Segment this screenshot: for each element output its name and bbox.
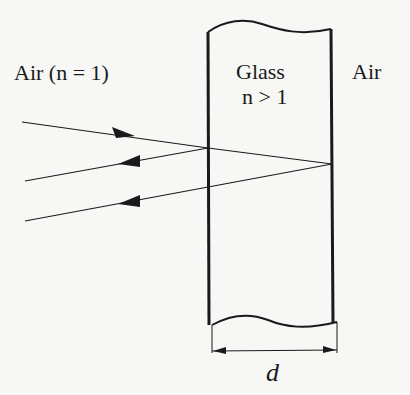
slab-bottom-break xyxy=(212,316,337,327)
dimension-arrow-right-icon xyxy=(323,346,336,353)
slab-index-label: n > 1 xyxy=(242,86,287,108)
slab-name-label: Glass xyxy=(236,61,285,83)
left-medium-label: Air (n = 1) xyxy=(14,62,109,84)
transmitted-ray xyxy=(208,148,332,164)
slab-left-wall xyxy=(208,32,209,325)
right-medium-label: Air xyxy=(352,61,381,83)
slab-top-break xyxy=(208,21,331,32)
arrow-left-icon xyxy=(118,195,140,207)
slab-right-wall xyxy=(331,29,333,323)
thickness-label: d xyxy=(266,360,279,386)
dimension-arrow-left-icon xyxy=(213,347,226,354)
arrow-left-icon xyxy=(118,155,140,167)
dimension-line xyxy=(212,350,337,351)
arrow-right-icon xyxy=(112,127,135,138)
reflected-ray-front xyxy=(25,148,208,181)
